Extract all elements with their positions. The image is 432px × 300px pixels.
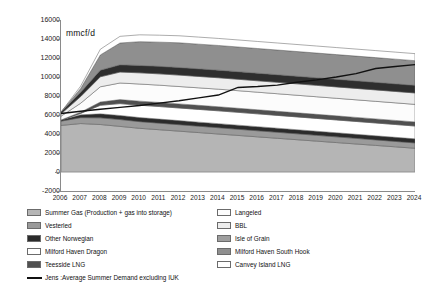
legend-item: Vesterled <box>27 219 217 232</box>
y-axis-tick-label: 12000 <box>2 54 60 61</box>
y-axis-tick-label: 6000 <box>2 111 60 118</box>
x-axis-tick-label: 2018 <box>289 194 304 202</box>
legend-item: Isle of Grain <box>217 232 427 245</box>
legend-item: Summer Gas (Production + gas into storag… <box>27 206 217 219</box>
y-axis-tick-label: 2000 <box>2 149 60 156</box>
legend-item-demand-line: Jens :Average Summer Demand excluding IU… <box>27 272 179 284</box>
x-axis-tick-label: 2024 <box>407 194 422 202</box>
x-axis-tick-label: 2010 <box>131 194 146 202</box>
legend-item: Canvey Island LNG <box>217 258 427 271</box>
plot-frame <box>60 20 415 192</box>
legend-swatch <box>217 222 231 229</box>
legend-item: Other Norwegian <box>27 232 217 245</box>
legend-item-label: Milford Haven South Hook <box>235 248 310 256</box>
y-axis-tick-label: 0 <box>2 168 60 175</box>
legend-item-label: Isle of Grain <box>235 235 269 243</box>
x-axis-tick-label: 2017 <box>269 194 284 202</box>
legend-item: Milford Haven South Hook <box>217 245 427 258</box>
legend-item: Milford Haven Dragon <box>27 245 217 258</box>
legend-item-label: BBL <box>235 222 247 230</box>
stacked-area-plot <box>61 20 415 191</box>
legend-swatch <box>27 235 41 242</box>
chart-screenshot: 1600014000120001000080006000400020000-20… <box>0 0 432 300</box>
y-axis-tick-label: 8000 <box>2 92 60 99</box>
legend-item-label: Other Norwegian <box>45 235 93 243</box>
x-axis-tick-label: 2021 <box>348 194 363 202</box>
y-axis-tick-label: 16000 <box>2 16 60 23</box>
y-axis-tick-label: 10000 <box>2 73 60 80</box>
legend-item-label: Milford Haven Dragon <box>45 248 107 256</box>
y-axis-tick-label: 14000 <box>2 35 60 42</box>
x-axis-tick-label: 2012 <box>171 194 186 202</box>
legend-swatch <box>217 209 231 216</box>
legend-item: Teesside LNG <box>27 258 217 271</box>
x-axis-tick-label: 2006 <box>53 194 68 202</box>
legend-line-swatch <box>27 277 42 279</box>
legend-swatch <box>217 248 231 255</box>
y-axis-tick-label: -2000 <box>2 187 60 194</box>
x-axis-tick-label: 2014 <box>210 194 225 202</box>
x-axis-tick-label: 2020 <box>328 194 343 202</box>
legend-item: BBL <box>217 219 427 232</box>
y-axis: 1600014000120001000080006000400020000-20… <box>0 8 60 200</box>
legend-swatch <box>27 261 41 268</box>
legend-column-right: LangeledBBLIsle of GrainMilford Haven So… <box>217 206 427 271</box>
chart-legend: Summer Gas (Production + gas into storag… <box>0 206 432 298</box>
x-axis-tick-label: 2008 <box>92 194 107 202</box>
x-axis-tick-label: 2011 <box>151 194 165 202</box>
x-axis-tick-label: 2007 <box>72 194 87 202</box>
x-axis-tick-label: 2022 <box>367 194 382 202</box>
x-axis-tick-label: 2019 <box>308 194 323 202</box>
x-axis-tick-label: 2009 <box>112 194 127 202</box>
x-axis-tick-label: 2023 <box>387 194 402 202</box>
legend-item-label: Canvey Island LNG <box>235 261 290 269</box>
legend-item-label: Vesterled <box>45 222 72 230</box>
legend-swatch <box>217 235 231 242</box>
legend-swatch <box>217 261 231 268</box>
x-axis-tick-label: 2016 <box>249 194 264 202</box>
legend-item-label: Summer Gas (Production + gas into storag… <box>45 209 172 217</box>
legend-item-label: Jens :Average Summer Demand excluding IU… <box>45 274 179 282</box>
legend-swatch <box>27 248 41 255</box>
legend-swatch <box>27 209 41 216</box>
x-axis-tick-label: 2013 <box>190 194 205 202</box>
legend-item-label: Langeled <box>235 209 261 217</box>
legend-column-left: Summer Gas (Production + gas into storag… <box>27 206 217 271</box>
legend-item: Langeled <box>217 206 427 219</box>
chart-area: 1600014000120001000080006000400020000-20… <box>0 8 432 200</box>
y-axis-tick-label: 4000 <box>2 130 60 137</box>
legend-item-label: Teesside LNG <box>45 261 85 269</box>
x-axis-tick-label: 2015 <box>230 194 245 202</box>
legend-swatch <box>27 222 41 229</box>
